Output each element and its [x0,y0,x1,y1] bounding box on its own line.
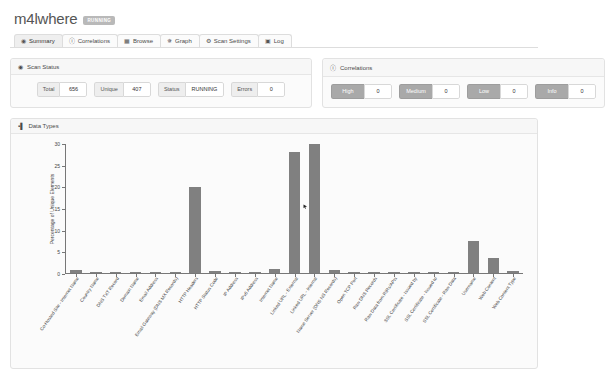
bar[interactable] [428,272,440,273]
bar[interactable] [329,270,341,273]
bar[interactable] [289,152,301,273]
x-tick-label: Username [461,276,477,296]
panels-row: ◉ Scan Status Total 656 Unique 407 Statu… [10,58,538,108]
bar[interactable] [249,272,261,273]
bar[interactable] [170,272,182,273]
cursor-marker [303,204,307,208]
y-tick-label: 20 [54,184,60,190]
bar[interactable] [130,272,142,273]
bar[interactable] [468,241,480,273]
tab-label: Graph [175,38,192,44]
bar-slot[interactable] [483,144,503,273]
bar-slot[interactable] [106,144,126,273]
bar-slot[interactable] [205,144,225,273]
tab-correlations[interactable]: ⓘ Correlations [62,34,118,47]
correlation-low[interactable]: Low 0 [467,84,528,99]
scan-status-body: Total 656 Unique 407 Status RUNNING Erro… [11,75,311,105]
x-axis-labels: Co-Hosted Site - Internet NameCountry Na… [66,276,523,362]
data-types-chart: Percentage of Unique Elements 0510152025… [11,134,537,368]
info-icon: ⓘ [330,63,336,72]
x-tick-label: Internet Name [258,276,279,303]
bar[interactable] [408,272,420,273]
y-tick-label: 30 [54,141,60,147]
correlation-label: Info [535,84,568,99]
y-tick-label: 10 [54,228,60,234]
x-tick-label: Country Name [79,276,100,303]
y-tick [62,209,65,210]
bar[interactable] [90,272,102,273]
x-tick-label: Open TCP Port [336,276,358,304]
bar[interactable] [110,272,122,273]
stat-status: Status RUNNING [158,82,224,97]
y-tick [62,274,65,275]
correlation-label: Low [467,84,500,99]
bar-slot[interactable] [66,144,86,273]
bar[interactable] [189,187,201,273]
correlation-info[interactable]: Info 0 [535,84,596,99]
bar-slot[interactable] [344,144,364,273]
bar-slot[interactable] [126,144,146,273]
bar[interactable] [229,272,241,273]
bar-slot[interactable] [444,144,464,273]
bar[interactable] [269,269,281,273]
tab-scan-settings[interactable]: ⚙ Scan Settings [199,34,259,47]
bar-slot[interactable] [185,144,205,273]
x-tick-label: Co-Hosted Site - Internet Name [39,276,80,332]
bar[interactable] [309,144,321,273]
bar-slot[interactable] [404,144,424,273]
correlation-count: 0 [364,84,392,99]
scan-status-title: Scan Status [27,64,59,70]
bar-slot[interactable] [424,144,444,273]
tab-log[interactable]: ▣ Log [258,34,292,47]
bar-slot[interactable] [165,144,185,273]
x-tick-label: Domain Name [119,276,140,303]
bar[interactable] [368,272,380,273]
stat-value: 407 [123,82,151,97]
bar-slot[interactable] [324,144,344,273]
bar[interactable] [348,272,360,273]
tab-graph[interactable]: ✵ Graph [160,34,200,47]
eye-icon: ◉ [21,38,26,44]
bar-slot[interactable] [146,144,166,273]
bar-slot[interactable] [225,144,245,273]
x-tick-label: IPv6 Address [239,276,259,301]
bar[interactable] [388,272,400,273]
correlation-medium[interactable]: Medium 0 [399,84,460,99]
bar-slot[interactable] [503,144,523,273]
scan-status-panel: ◉ Scan Status Total 656 Unique 407 Statu… [10,58,312,108]
tab-browse[interactable]: ▦ Browse [117,34,161,47]
bar-slot[interactable] [265,144,285,273]
bar-slot[interactable] [384,144,404,273]
bar-slot[interactable] [245,144,265,273]
correlation-high[interactable]: High 0 [331,84,392,99]
tab-label: Correlations [78,38,110,44]
info-icon: ⓘ [69,38,75,44]
tab-summary[interactable]: ◉ Summary [14,34,63,47]
y-tick-label: 15 [54,206,60,212]
stat-label: Errors [231,82,257,97]
plot-area: Percentage of Unique Elements 0510152025… [65,144,523,274]
x-tick-label: IP Address [222,276,239,297]
stat-label: Status [158,82,185,97]
tab-label: Log [274,38,284,44]
stat-total: Total 656 [37,82,88,97]
correlations-header: ⓘ Correlations [323,59,604,77]
bar[interactable] [70,270,82,273]
bar-slot[interactable] [285,144,305,273]
bar[interactable] [488,258,500,273]
tab-label: Scan Settings [214,38,251,44]
x-tick-label: Email Gateway (DNS MX Records) [134,276,179,337]
bar[interactable] [209,271,221,273]
bar[interactable] [507,271,519,273]
y-tick [62,187,65,188]
bar-slot[interactable] [86,144,106,273]
scan-status-header: ◉ Scan Status [11,59,311,75]
stat-label: Total [37,82,60,97]
bar[interactable] [150,272,162,273]
x-tick-label: DNS TXT Record [95,276,120,308]
bar-series [66,144,523,273]
bar-slot[interactable] [464,144,484,273]
bar-slot[interactable] [364,144,384,273]
correlation-count: 0 [432,84,460,99]
bar[interactable] [448,272,460,273]
